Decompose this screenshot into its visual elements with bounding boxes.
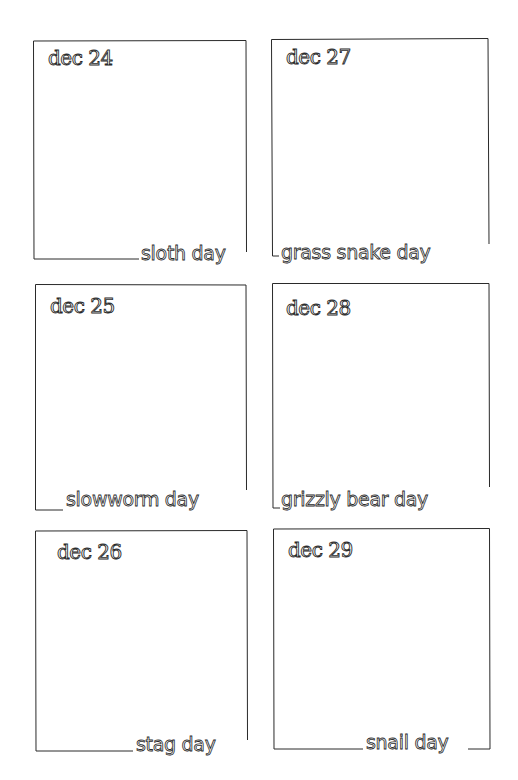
day-panel-dec-28: dec 28 grizzly bear day bbox=[272, 283, 490, 509]
day-panel-dec-24: dec 24 sloth day bbox=[33, 40, 247, 259]
caption-label: grizzly bear day bbox=[280, 490, 429, 509]
date-label: dec 28 bbox=[286, 298, 351, 318]
date-label: dec 25 bbox=[50, 296, 115, 316]
panel-frame bbox=[271, 38, 489, 257]
caption-label: sloth day bbox=[140, 244, 227, 263]
panel-frame bbox=[35, 284, 247, 511]
day-panel-dec-25: dec 25 slowworm day bbox=[35, 284, 247, 511]
date-label: dec 29 bbox=[288, 540, 353, 560]
day-panel-dec-27: dec 27 grass snake day bbox=[271, 38, 489, 257]
panel-frame bbox=[33, 40, 247, 259]
date-label: dec 26 bbox=[57, 542, 122, 562]
caption-label: grass snake day bbox=[280, 243, 431, 262]
day-panel-dec-29: dec 29 snail day bbox=[273, 528, 491, 750]
date-label: dec 24 bbox=[48, 48, 113, 68]
caption-label: snail day bbox=[365, 733, 449, 752]
day-panel-dec-26: dec 26 stag day bbox=[35, 530, 248, 752]
caption-label: slowworm day bbox=[65, 490, 200, 509]
caption-label: stag day bbox=[135, 735, 217, 754]
date-label: dec 27 bbox=[286, 47, 351, 67]
